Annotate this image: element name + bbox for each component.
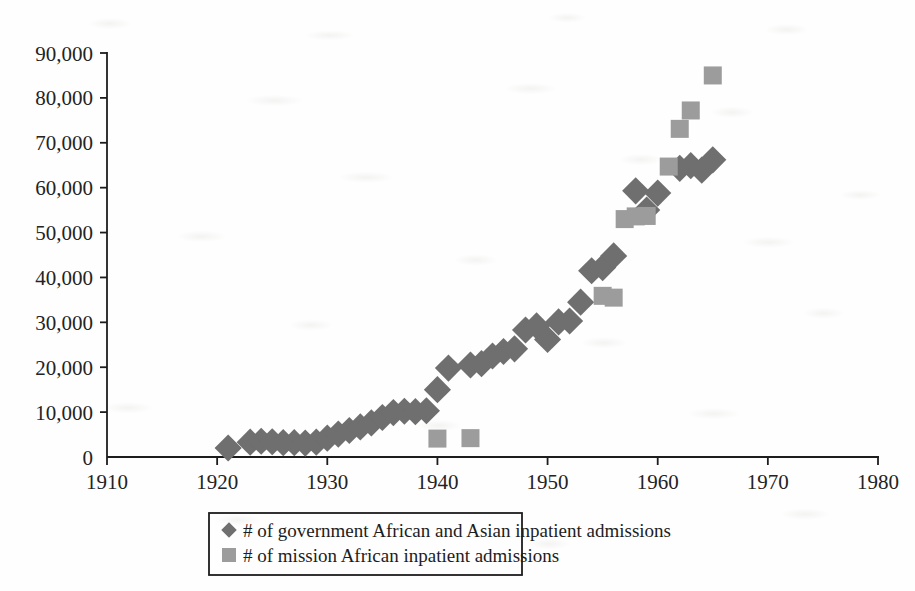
y-axis-tick-label: 80,000 [35,86,93,110]
data-series-layer [215,66,727,461]
series-government [215,146,727,461]
legend-marker-diamond [221,522,237,538]
legend-marker-square [222,548,236,562]
y-axis-tick-label: 20,000 [35,356,93,380]
x-axis-tick-label: 1980 [857,470,899,494]
legend-item-label: # of mission African inpatient admission… [243,545,559,566]
y-axis-tick-label: 10,000 [35,401,93,425]
data-point-square [461,429,479,447]
data-point-square [660,158,678,176]
data-point-square [428,430,446,448]
y-axis-tick-label: 50,000 [35,221,93,245]
y-axis: 010,00020,00030,00040,00050,00060,00070,… [35,42,107,470]
data-point-square [671,120,689,138]
x-axis-tick-label: 1910 [86,470,128,494]
data-point-square [682,101,700,119]
y-axis-tick-label: 0 [83,446,94,470]
x-axis-tick-label: 1930 [306,470,348,494]
y-axis-tick-label: 90,000 [35,42,93,66]
x-axis: 19101920193019401950196019701980 [86,457,899,494]
series-mission [428,66,721,447]
x-axis-tick-label: 1970 [747,470,789,494]
y-axis-tick-label: 60,000 [35,176,93,200]
x-axis-tick-label: 1950 [527,470,569,494]
data-point-square [704,66,722,84]
y-axis-tick-label: 70,000 [35,131,93,155]
chart-legend: # of government African and Asian inpati… [209,513,671,575]
chart-page: 010,00020,00030,00040,00050,00060,00070,… [0,0,915,591]
data-point-square [638,207,656,225]
x-axis-tick-label: 1960 [637,470,679,494]
data-point-square [605,289,623,307]
y-axis-tick-label: 40,000 [35,266,93,290]
y-axis-tick-label: 30,000 [35,311,93,335]
x-axis-tick-label: 1920 [196,470,238,494]
legend-item-label: # of government African and Asian inpati… [243,520,671,541]
scatter-chart: 010,00020,00030,00040,00050,00060,00070,… [0,0,915,591]
x-axis-tick-label: 1940 [416,470,458,494]
